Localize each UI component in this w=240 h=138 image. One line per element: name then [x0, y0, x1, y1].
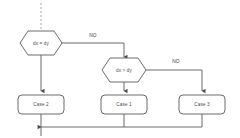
process-node-case-1-label: Case 1	[116, 102, 132, 107]
edge-label-no-1: NO	[89, 33, 97, 38]
flowchart-canvas: dx = dy NO dx > dy NO Case 2 Case 1 Case…	[0, 0, 240, 138]
process-node-case-2-label: Case 2	[33, 102, 49, 107]
connector-decision1-no-to-decision2	[62, 43, 124, 57]
flowchart-svg: dx = dy NO dx > dy NO Case 2 Case 1 Case…	[0, 0, 240, 138]
edge-label-no-2: NO	[172, 59, 180, 64]
process-node-case-3-label: Case 3	[194, 102, 210, 107]
connector-decision2-no-to-case3	[146, 70, 202, 91]
decision-node-dx-equals-dy-label: dx = dy	[33, 41, 50, 46]
decision-node-dx-greater-dy-label: dx > dy	[116, 68, 133, 73]
